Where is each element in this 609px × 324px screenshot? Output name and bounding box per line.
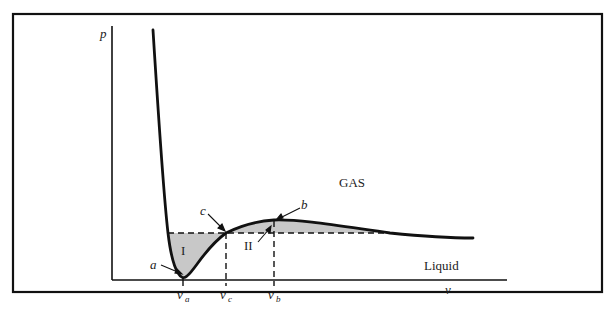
svg-text:v: v: [177, 287, 183, 302]
area-1-label: I: [181, 243, 185, 258]
pointer-c: [208, 214, 225, 231]
tick-label-vb: v b: [268, 287, 281, 304]
point-b-label: b: [301, 197, 308, 212]
svg-text:v: v: [220, 287, 226, 302]
area-2-label: II: [244, 238, 253, 253]
gas-region-label: GAS: [339, 175, 365, 190]
pv-diagram: p v GAS Liquid I II a c b v a v c v b: [0, 0, 609, 324]
liquid-region-label: Liquid: [424, 258, 459, 273]
svg-text:v: v: [268, 287, 274, 302]
tick-label-va: v a: [177, 287, 190, 304]
point-c-label: c: [200, 203, 206, 218]
figure-frame: [13, 14, 602, 292]
y-axis-label: p: [99, 26, 107, 41]
point-a-label: a: [150, 257, 157, 272]
svg-text:a: a: [185, 294, 190, 304]
tick-label-vc: v c: [220, 287, 232, 304]
svg-text:c: c: [228, 294, 232, 304]
x-axis-label: v: [445, 282, 451, 297]
svg-text:b: b: [276, 294, 281, 304]
pointer-b: [276, 208, 300, 220]
